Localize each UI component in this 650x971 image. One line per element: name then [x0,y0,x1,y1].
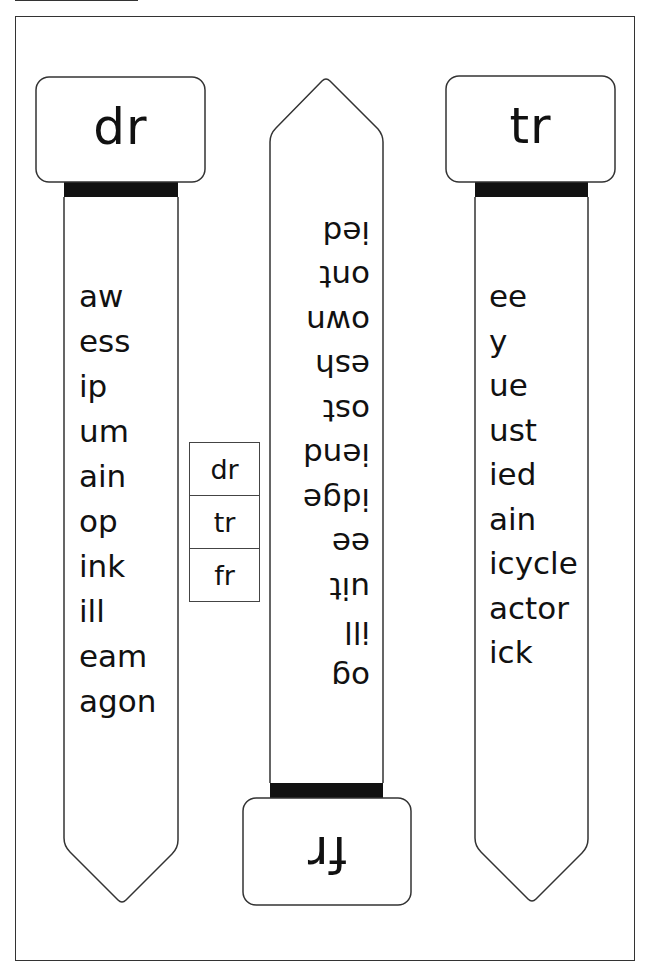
word-item: ied [298,210,370,255]
middle-strip-bar [270,783,383,798]
word-item: og [298,655,370,700]
blend-cell: tr [190,496,260,549]
right-word-list: ee y ue ust ied ain icycle actor ick [489,274,578,675]
blend-table: dr tr fr [189,442,260,602]
word-item: ied [489,452,578,497]
word-item: um [79,409,156,454]
word-item: esh [298,344,370,389]
word-item: y [489,319,578,364]
left-header-label: dr [93,102,147,152]
middle-word-list: og ill uit ee idge iend ost esh own ont … [298,210,370,700]
word-item: own [298,299,370,344]
left-word-list: aw ess ip um ain op ink ill eam agon [79,274,156,724]
word-item: ip [79,364,156,409]
word-item: ick [489,630,578,675]
word-item: ain [489,497,578,542]
word-item: op [79,499,156,544]
word-item: ain [79,454,156,499]
right-header: tr [446,76,615,176]
word-item: ill [79,589,156,634]
left-header: dr [36,77,205,177]
word-item: icycle [489,541,578,586]
right-header-label: tr [509,101,551,151]
word-item: ue [489,363,578,408]
table-row: tr [190,496,260,549]
left-strip-bar [64,182,178,197]
table-row: dr [190,443,260,496]
word-item: ust [489,408,578,453]
word-item: aw [79,274,156,319]
word-item: ee [298,522,370,567]
word-item: idge [298,477,370,522]
right-strip-bar [475,182,588,197]
word-item: actor [489,586,578,631]
word-item: agon [79,679,156,724]
middle-footer: fr [243,803,411,905]
table-row: fr [190,549,260,602]
word-item: ost [298,388,370,433]
word-item: ink [79,544,156,589]
middle-footer-label: fr [307,829,347,879]
word-item: ill [298,611,370,656]
blend-cell: dr [190,443,260,496]
word-item: iend [298,433,370,478]
word-item: ont [298,255,370,300]
blend-cell: fr [190,549,260,602]
word-item: ee [489,274,578,319]
word-item: eam [79,634,156,679]
word-item: uit [298,566,370,611]
word-item: ess [79,319,156,364]
